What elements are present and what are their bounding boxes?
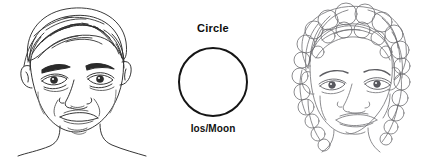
circle-shape-wrap [170,46,256,118]
figure-canvas: Circle Ios/Moon [0,0,426,160]
circle-shape [170,46,256,118]
male-face-line-drawing [8,0,158,160]
right-portrait-panel [272,0,426,160]
child-face-line-drawing [272,0,426,160]
shape-title: Circle [158,22,268,35]
shape-panel: Circle Ios/Moon [158,0,268,160]
left-portrait-panel [8,0,158,160]
shape-caption: Ios/Moon [158,123,268,135]
